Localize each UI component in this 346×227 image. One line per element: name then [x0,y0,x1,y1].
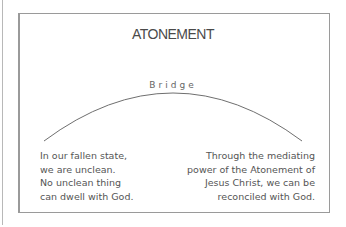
reconciled-text: Through the mediating power of the Atone… [187,149,315,203]
text-line: we are unclean. [40,163,133,177]
text-line: In our fallen state, [40,149,133,163]
text-line: Through the mediating [187,149,315,163]
text-line: reconciled with God. [187,190,315,204]
text-line: No unclean thing [40,176,133,190]
text-line: power of the Atonement of [187,163,315,177]
text-line: can dwell with God. [40,190,133,204]
text-line: Jesus Christ, we can be [187,176,315,190]
fallen-state-text: In our fallen state, we are unclean. No … [40,149,133,203]
